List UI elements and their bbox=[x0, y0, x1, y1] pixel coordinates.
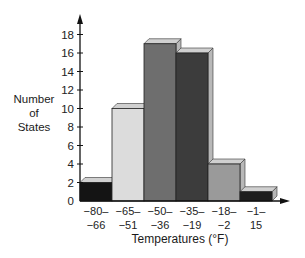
bar-top bbox=[112, 104, 149, 109]
bar-top bbox=[240, 187, 277, 192]
x-tick-label: −19 bbox=[183, 219, 202, 231]
x-tick-label: −51 bbox=[119, 219, 138, 231]
bar bbox=[176, 53, 208, 201]
y-tick-label: 8 bbox=[68, 121, 74, 133]
x-tick-label: −65– bbox=[116, 205, 142, 217]
x-tick-label: −36 bbox=[151, 219, 170, 231]
bar bbox=[80, 183, 112, 202]
bar bbox=[144, 44, 176, 201]
bar bbox=[208, 164, 240, 201]
bar-top bbox=[208, 159, 245, 164]
x-tick-label: −18– bbox=[212, 205, 238, 217]
y-axis-label-line: Number bbox=[6, 92, 62, 106]
x-tick-label: −35– bbox=[180, 205, 206, 217]
y-axis-label-line: of bbox=[6, 106, 62, 120]
bar-top bbox=[176, 48, 213, 53]
y-axis-label-line: States bbox=[6, 120, 62, 134]
x-tick-label: 15 bbox=[250, 219, 262, 231]
y-axis-label: Number of States bbox=[6, 92, 62, 134]
y-tick-label: 2 bbox=[68, 177, 74, 189]
y-tick-label: 12 bbox=[61, 84, 74, 96]
x-tick-label: −80– bbox=[84, 205, 110, 217]
x-tick-label: −1– bbox=[247, 205, 267, 217]
x-tick-label: −2 bbox=[218, 219, 231, 231]
y-axis-arrow-icon bbox=[77, 14, 83, 24]
bar-top bbox=[80, 178, 117, 183]
x-axis-arrow-icon bbox=[280, 198, 290, 204]
bar bbox=[112, 109, 144, 202]
x-tick-label: −50– bbox=[148, 205, 174, 217]
y-tick-label: 0 bbox=[68, 195, 74, 207]
y-tick-label: 4 bbox=[68, 158, 75, 170]
x-tick-label: −66 bbox=[87, 219, 106, 231]
y-tick-label: 18 bbox=[61, 29, 74, 41]
x-axis-label: Temperatures (°F) bbox=[80, 232, 280, 246]
y-tick-label: 6 bbox=[68, 140, 74, 152]
y-tick-label: 10 bbox=[61, 103, 74, 115]
bar-top bbox=[144, 39, 181, 44]
y-tick-label: 16 bbox=[61, 47, 74, 59]
y-tick-label: 14 bbox=[61, 66, 74, 78]
bar bbox=[240, 192, 272, 201]
